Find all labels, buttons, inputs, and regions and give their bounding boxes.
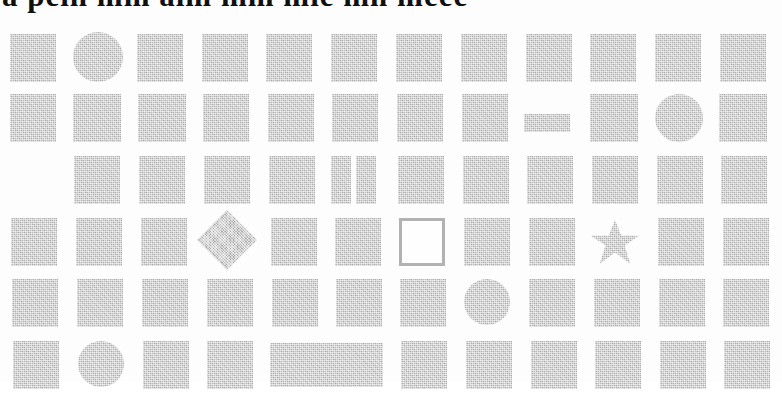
- block-square: [462, 94, 508, 142]
- block-square: [10, 94, 56, 142]
- block-square: [720, 34, 766, 82]
- block-hollow-square: [399, 218, 445, 266]
- block-square: [207, 279, 253, 327]
- block-square: [526, 34, 572, 82]
- block-square: [335, 218, 381, 266]
- block-square: [724, 341, 770, 389]
- block-square: [529, 218, 575, 266]
- block-row: [0, 209, 782, 271]
- block-square: [592, 156, 638, 204]
- block-square: [139, 156, 185, 204]
- block-square: [203, 94, 249, 142]
- block-square: [401, 341, 447, 389]
- block-square: [331, 34, 377, 82]
- block-square: [272, 279, 318, 327]
- block-square: [655, 34, 701, 82]
- block-square: [590, 94, 638, 142]
- block-square: [594, 279, 640, 327]
- block-star: [591, 220, 639, 264]
- block-square: [207, 341, 253, 389]
- block-square: [723, 218, 769, 266]
- block-square: [268, 94, 314, 142]
- block-circle: [464, 279, 510, 325]
- block-square: [10, 34, 56, 82]
- block-bar: [524, 114, 570, 132]
- block-square: [590, 34, 636, 82]
- block-square: [269, 156, 315, 204]
- block-row: [0, 26, 782, 88]
- block-square: [660, 341, 706, 389]
- block-diamond: [197, 210, 256, 269]
- block-square: [336, 279, 382, 327]
- block-square: [658, 218, 704, 266]
- block-row: [0, 88, 782, 150]
- block-square: [138, 94, 186, 142]
- block-square: [723, 279, 769, 327]
- block-square: [13, 341, 59, 389]
- block-square: [529, 279, 575, 327]
- block-square: [137, 34, 183, 82]
- block-square: [143, 341, 189, 389]
- block-square: [332, 94, 378, 142]
- block-circle: [655, 94, 703, 142]
- block-wide-rect: [270, 343, 383, 387]
- block-square: [76, 218, 122, 266]
- block-circle: [73, 32, 123, 82]
- block-row: [0, 270, 782, 332]
- block-square: [73, 94, 121, 142]
- block-split-left: [331, 156, 351, 204]
- block-square: [527, 156, 573, 204]
- block-square: [142, 279, 188, 327]
- block-square: [202, 34, 248, 82]
- block-square: [531, 341, 577, 389]
- block-square: [271, 218, 317, 266]
- block-square: [141, 218, 187, 266]
- cropped-header-text: a pein mm aim mm mie mn meee: [0, 0, 782, 13]
- block-square: [398, 156, 444, 204]
- block-square: [204, 156, 250, 204]
- block-square: [461, 34, 507, 82]
- placeholder-block-grid: [0, 13, 782, 381]
- block-square: [466, 341, 512, 389]
- block-square: [719, 94, 767, 142]
- block-square: [400, 279, 446, 327]
- block-square: [396, 34, 442, 82]
- block-square: [595, 341, 641, 389]
- block-square: [266, 34, 312, 82]
- block-square: [12, 279, 58, 327]
- block-square: [74, 156, 120, 204]
- block-split-right: [356, 156, 376, 204]
- header-text-fragment: a pein mm aim mm mie mn meee: [0, 0, 782, 13]
- block-square: [657, 156, 703, 204]
- block-square: [659, 279, 705, 327]
- block-square: [77, 279, 123, 327]
- block-row: [0, 148, 782, 210]
- block-circle: [78, 341, 124, 387]
- block-square: [721, 156, 767, 204]
- block-row: [0, 331, 782, 393]
- block-square: [397, 94, 443, 142]
- block-square: [463, 156, 509, 204]
- block-square: [11, 218, 57, 266]
- block-square: [464, 218, 510, 266]
